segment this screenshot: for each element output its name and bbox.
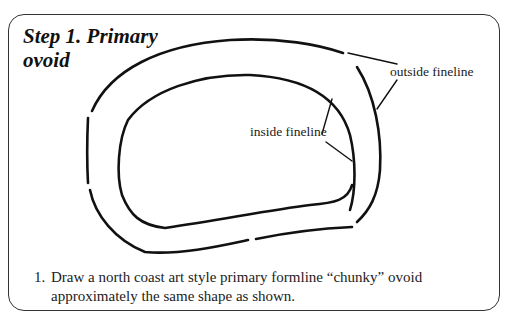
outer-fineline-left [87, 118, 88, 183]
instruction-text-line2: approximately the same shape as shown. [34, 287, 484, 306]
outside-fineline-label: outside fineline [390, 64, 474, 80]
instruction-item: 1.Draw a north coast art style primary f… [34, 268, 484, 287]
instruction-list: 1.Draw a north coast art style primary f… [34, 268, 484, 306]
inside-fineline-label: inside fineline [250, 124, 327, 140]
outside-leader-top [348, 53, 397, 64]
outer-fineline-bottom-right [256, 227, 352, 239]
inner-fineline [119, 75, 355, 228]
instruction-number: 1. [34, 268, 51, 287]
outer-fineline-bottom-left [90, 190, 248, 253]
outer-fineline-right [357, 67, 380, 222]
outer-fineline-top [92, 39, 343, 111]
inside-leader-bottom [326, 142, 352, 161]
instruction-text-line1: Draw a north coast art style primary for… [51, 269, 422, 285]
outside-leader-right [377, 80, 397, 109]
